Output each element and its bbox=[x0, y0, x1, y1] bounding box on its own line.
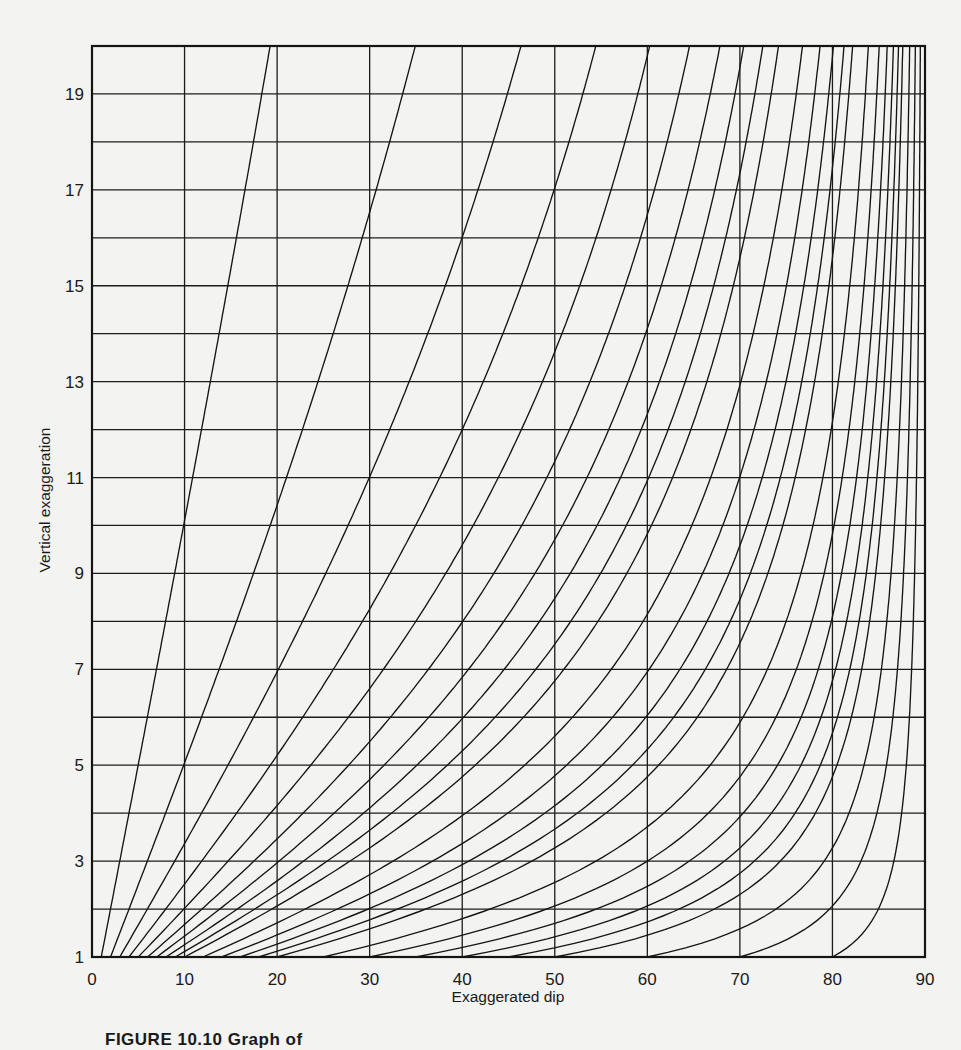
plot-frame bbox=[92, 46, 925, 957]
y-tick-label: 17 bbox=[65, 181, 84, 200]
x-tick-label: 0 bbox=[87, 970, 96, 989]
true-dip-curve-6 bbox=[148, 46, 690, 957]
true-dip-curve-16 bbox=[240, 46, 833, 957]
true-dip-curves bbox=[101, 46, 920, 957]
y-tick-label: 15 bbox=[65, 277, 84, 296]
y-axis-ticks: 135791113151719 bbox=[65, 85, 84, 967]
true-dip-curve-60 bbox=[647, 46, 909, 957]
x-tick-label: 90 bbox=[916, 970, 935, 989]
y-tick-label: 13 bbox=[65, 373, 84, 392]
true-dip-curve-14 bbox=[222, 46, 820, 957]
true-dip-curve-1 bbox=[101, 46, 270, 957]
x-tick-label: 40 bbox=[453, 970, 472, 989]
x-tick-label: 10 bbox=[175, 970, 194, 989]
true-dip-curve-12 bbox=[203, 46, 802, 957]
x-axis-ticks: 0102030405060708090 bbox=[87, 970, 934, 989]
y-tick-label: 5 bbox=[75, 756, 84, 775]
y-tick-label: 19 bbox=[65, 85, 84, 104]
x-tick-label: 20 bbox=[268, 970, 287, 989]
grid-lines bbox=[92, 46, 925, 957]
y-tick-label: 1 bbox=[75, 948, 84, 967]
x-axis-label: Exaggerated dip bbox=[452, 988, 565, 1005]
y-tick-label: 9 bbox=[75, 564, 84, 583]
true-dip-curve-4 bbox=[129, 46, 596, 957]
true-dip-curve-7 bbox=[157, 46, 720, 957]
true-dip-curve-50 bbox=[555, 46, 903, 957]
x-tick-label: 50 bbox=[545, 970, 564, 989]
x-tick-label: 30 bbox=[360, 970, 379, 989]
x-tick-label: 60 bbox=[638, 970, 657, 989]
true-dip-curve-3 bbox=[120, 46, 521, 957]
x-tick-label: 70 bbox=[730, 970, 749, 989]
true-dip-curve-5 bbox=[138, 46, 649, 957]
y-axis-label: Vertical exaggeration bbox=[36, 428, 53, 573]
figure-caption: FIGURE 10.10 Graph of bbox=[105, 1030, 303, 1050]
true-dip-curve-9 bbox=[175, 46, 763, 957]
y-tick-label: 11 bbox=[66, 469, 84, 488]
y-tick-label: 3 bbox=[75, 852, 84, 871]
true-dip-curve-40 bbox=[462, 46, 893, 957]
x-tick-label: 80 bbox=[823, 970, 842, 989]
y-tick-label: 7 bbox=[75, 660, 84, 679]
